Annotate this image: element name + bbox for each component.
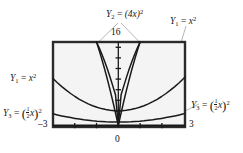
callout-y1-left: Y1 = x2 [10,73,36,84]
x-max-label: 3 [189,119,194,129]
graph-svg [0,0,243,153]
callout-y3-right-name: Y3 [191,100,200,110]
y-max-label: 16 [111,27,121,37]
figure-canvas: Y2 = (4x)2 16 Y1 = x2 Y1 = x2 Y3 = (12x)… [0,0,243,153]
callout-y3-right: Y3 = (12x)2 [191,98,230,112]
callout-y2-top-center: Y2 = (4x)2 [106,9,143,20]
leader-y2-right [121,23,139,42]
callout-y1-left-name: Y1 [10,73,19,83]
callout-y3-left: Y3 = (12x)2 [3,106,42,120]
callout-y1-left-expr: x2 [29,73,36,83]
callout-y1-tr-expr: x2 [189,16,196,26]
callout-y1-tr-name: Y1 [170,16,179,26]
callout-y1-top-right: Y1 = x2 [170,16,196,27]
x-min-label: –3 [38,119,48,129]
callout-y2-name: Y2 [106,9,115,19]
callout-y2-expr: (4x)2 [125,9,144,19]
origin-label: 0 [115,134,120,144]
callout-y3-left-name: Y3 [3,108,12,118]
callout-y2-equals: = [117,9,125,19]
